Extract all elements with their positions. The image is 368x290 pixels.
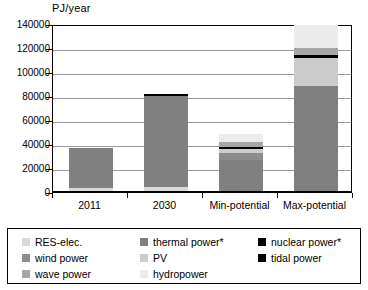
y-axis-tick-label: 60000 <box>0 116 50 126</box>
legend-label: hydropower <box>153 268 208 280</box>
axis-baseline <box>53 191 351 192</box>
x-axis-label-2011: 2011 <box>78 199 101 211</box>
legend-label: PV <box>153 252 167 264</box>
bar-segment <box>294 58 338 87</box>
x-axis-label-2030: 2030 <box>153 199 176 211</box>
bar-segment <box>219 160 263 192</box>
bar-segment <box>294 25 338 48</box>
chart-figure: PJ/year 02000040000600008000010000012000… <box>0 0 368 290</box>
legend-item-hydropower[interactable]: hydropower <box>140 268 258 280</box>
y-axis-tick-label: 40000 <box>0 140 50 150</box>
legend-label: thermal power* <box>153 236 224 248</box>
bar-segment <box>69 148 113 188</box>
y-axis-title: PJ/year <box>52 2 91 14</box>
bar-segment <box>219 153 263 160</box>
bar-segment <box>144 96 188 187</box>
legend-label: nuclear power* <box>271 236 341 248</box>
y-axis-tick-label: 20000 <box>0 164 50 174</box>
legend-item-nuclear-power[interactable]: nuclear power* <box>258 236 352 248</box>
legend-swatch-icon <box>140 254 148 262</box>
legend-label: wind power <box>35 252 88 264</box>
y-axis-tick-label: 100000 <box>0 68 50 78</box>
x-axis-tick-mark <box>52 193 53 198</box>
legend-label: RES-elec. <box>35 236 82 248</box>
legend-swatch-icon <box>140 238 148 246</box>
legend-swatch-icon <box>22 254 30 262</box>
bar-segment <box>219 134 263 141</box>
legend-swatch-icon <box>258 238 266 246</box>
y-axis-tick-label: 120000 <box>0 44 50 54</box>
legend-label: wave power <box>35 268 91 280</box>
legend-swatch-icon <box>22 270 30 278</box>
x-axis-tick-mark <box>277 193 278 198</box>
legend-label: tidal power <box>271 252 322 264</box>
legend-item-pv[interactable]: PV <box>140 252 258 264</box>
stacked-bar[interactable] <box>144 94 188 192</box>
y-axis-tick-label: 80000 <box>0 92 50 102</box>
x-axis-tick-mark <box>202 193 203 198</box>
legend-item-wind-power[interactable]: wind power <box>22 252 140 264</box>
legend-item-wave-power[interactable]: wave power <box>22 268 140 280</box>
plot-area <box>52 25 352 193</box>
legend-swatch-icon <box>258 254 266 262</box>
x-axis-label-max-potential: Max-potential <box>283 199 346 211</box>
x-axis-label-min-potential: Min-potential <box>209 199 269 211</box>
legend-swatch-icon <box>22 238 30 246</box>
stacked-bar[interactable] <box>69 148 113 192</box>
stacked-bar[interactable] <box>294 25 338 192</box>
bar-segment <box>294 86 338 192</box>
bar-segment <box>294 48 338 56</box>
legend: RES-elec.thermal power*nuclear power*win… <box>7 228 361 284</box>
x-axis-tick-mark <box>127 193 128 198</box>
x-axis-tick-mark <box>352 193 353 198</box>
legend-swatch-icon <box>140 270 148 278</box>
legend-item-tidal-power[interactable]: tidal power <box>258 252 352 264</box>
legend-item-thermal-power[interactable]: thermal power* <box>140 236 258 248</box>
y-axis-tick-label: 0 <box>0 188 50 198</box>
y-axis-tick-label: 140000 <box>0 20 50 30</box>
stacked-bar[interactable] <box>219 134 263 192</box>
legend-item-res-elec[interactable]: RES-elec. <box>22 236 140 248</box>
